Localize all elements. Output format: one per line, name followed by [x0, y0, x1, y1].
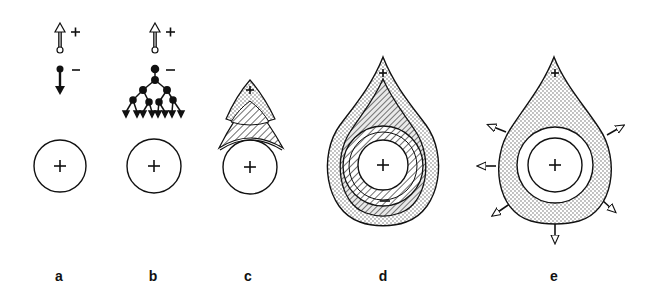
panel-label-a: a: [55, 268, 63, 284]
diagram-canvas: a: [0, 0, 657, 289]
plus-sign-icon: [71, 28, 80, 37]
cell-body: [528, 138, 582, 192]
panel-label-c: c: [244, 268, 252, 284]
arrow-upper-left-icon: [491, 126, 506, 132]
panel-a: a: [34, 23, 86, 284]
arrow-upper-right-icon: [607, 127, 621, 135]
panel-label-b: b: [149, 268, 158, 284]
cell-body: [127, 139, 181, 193]
excitatory-input-arrow-icon: [150, 23, 160, 53]
panel-label-d: d: [379, 268, 388, 284]
inhibitory-output-arrow-icon: [55, 66, 65, 96]
cell-body: [358, 140, 408, 190]
plus-sign-icon: [148, 160, 160, 172]
plus-sign-icon: [54, 160, 66, 172]
panel-label-e: e: [550, 268, 558, 284]
panel-b: b: [123, 23, 184, 284]
cell-body: [34, 140, 86, 192]
panel-c: c: [219, 80, 283, 284]
inhibitory-branching-tree-icon: [123, 66, 184, 118]
panel-e: e: [481, 57, 621, 284]
panel-d: d: [327, 57, 438, 284]
cell-body: [220, 140, 282, 194]
plus-sign-icon: [166, 28, 175, 37]
excitatory-input-arrow-icon: [55, 23, 65, 53]
